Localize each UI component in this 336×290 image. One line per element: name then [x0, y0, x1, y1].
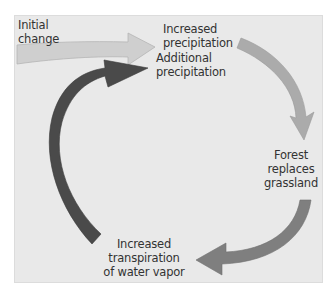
label-initial-change: Initial change [18, 18, 59, 46]
label-line: of water vapor [96, 265, 192, 279]
label-forest-replaces-grassland: Forest replaces grassland [258, 148, 324, 190]
label-line: Increased [163, 22, 233, 36]
label-additional-precipitation: Additional precipitation [156, 51, 226, 79]
label-line: Forest [258, 148, 324, 162]
label-line: precipitation [156, 65, 226, 79]
label-increased-transpiration: Increased transpiration of water vapor [96, 237, 192, 279]
label-line: grassland [258, 176, 324, 190]
arrow-transpiration-to-additional [49, 60, 148, 244]
label-line: precipitation [163, 36, 233, 50]
arrow-precipitation-to-forest [237, 38, 314, 140]
arrow-forest-to-transpiration [196, 200, 311, 275]
label-line: Initial [18, 18, 59, 32]
label-line: Additional [156, 51, 226, 65]
label-line: Increased [96, 237, 192, 251]
label-line: replaces [258, 162, 324, 176]
label-increased-precipitation: Increased precipitation [163, 22, 233, 50]
label-line: transpiration [96, 251, 192, 265]
label-line: change [18, 32, 59, 46]
